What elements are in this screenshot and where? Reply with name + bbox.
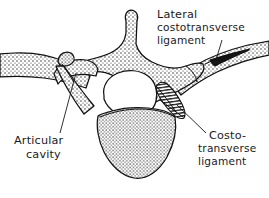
label-costotransverse-line-2: transverse <box>198 142 256 154</box>
label-articular-cavity: Articular cavity <box>14 134 64 161</box>
label-articular-cavity-line-2: cavity <box>26 148 61 161</box>
label-lateral-costotransverse: Lateral costotransverse ligament <box>157 8 245 46</box>
label-lateral-costotransverse-line-3: ligament <box>157 34 205 46</box>
label-lateral-costotransverse-line-2: costotransverse <box>157 21 245 33</box>
label-costotransverse-line-3: ligament <box>198 155 246 167</box>
label-costotransverse-line-1: Costo- <box>209 129 246 142</box>
label-costotransverse: Costo- transverse ligament <box>198 129 256 167</box>
label-articular-cavity-line-1: Articular <box>14 134 64 147</box>
anatomical-figure: Lateral costotransverse ligament Costo- … <box>0 0 269 198</box>
label-lateral-costotransverse-line-1: Lateral <box>157 8 197 21</box>
vertebra-diagram-svg: Lateral costotransverse ligament Costo- … <box>0 0 269 198</box>
vertebral-body <box>97 108 175 179</box>
